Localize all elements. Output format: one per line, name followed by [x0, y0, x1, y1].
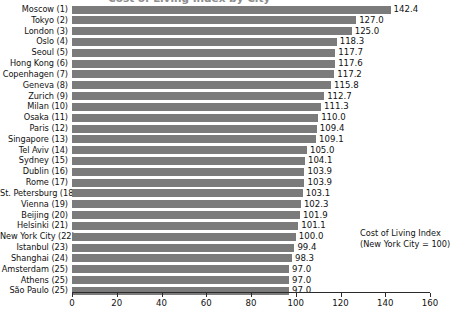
- bar-value-label: 101.1: [301, 220, 326, 231]
- bar-row: Milan (10)111.3: [0, 101, 470, 112]
- category-label: Geneva (8): [0, 80, 68, 91]
- bar-value-label: 101.9: [303, 210, 328, 221]
- bar: [72, 233, 296, 241]
- x-tick: [251, 293, 252, 297]
- category-label: St. Petersburg (18): [0, 188, 68, 199]
- category-label: Istanbul (23): [0, 242, 68, 253]
- category-label: Osaka (11): [0, 112, 68, 123]
- bar-row: Tokyo (2)127.0: [0, 15, 470, 26]
- bar-row: Singapore (13)109.1: [0, 134, 470, 145]
- bar-value-label: 103.9: [307, 177, 332, 188]
- category-label: Vienna (19): [0, 199, 68, 210]
- bar: [72, 60, 335, 68]
- bar-value-label: 127.0: [359, 15, 384, 26]
- x-tick-label: 120: [321, 298, 361, 308]
- plot-area: Moscow (1)142.4Tokyo (2)127.0London (3)1…: [0, 6, 470, 296]
- category-label: Dublin (16): [0, 166, 68, 177]
- category-label: Beijing (20): [0, 210, 68, 221]
- bar-row: Moscow (1)142.4: [0, 4, 470, 15]
- bar: [72, 49, 335, 57]
- bar: [72, 157, 305, 165]
- bar-row: Rome (17)103.9: [0, 177, 470, 188]
- bar-row: Hong Kong (6)117.6: [0, 58, 470, 69]
- bar: [72, 211, 300, 219]
- bar-row: Tel Aviv (14)105.0: [0, 145, 470, 156]
- x-tick: [296, 293, 297, 297]
- bar-value-label: 103.9: [307, 166, 332, 177]
- bar: [72, 103, 321, 111]
- bar-row: Geneva (8)115.8: [0, 80, 470, 91]
- bar-row: Zurich (9)112.7: [0, 91, 470, 102]
- bar-value-label: 109.4: [320, 123, 345, 134]
- bar-value-label: 111.3: [324, 101, 349, 112]
- category-label: Amsterdam (25): [0, 264, 68, 275]
- category-label: Copenhagen (7): [0, 69, 68, 80]
- bar-value-label: 117.2: [337, 69, 362, 80]
- bar-row: São Paulo (25)97.0: [0, 285, 470, 296]
- x-tick: [117, 293, 118, 297]
- bar: [72, 168, 304, 176]
- bar-value-label: 98.3: [295, 253, 314, 264]
- category-label: Tel Aviv (14): [0, 145, 68, 156]
- category-label: Singapore (13): [0, 134, 68, 145]
- bar-row: Paris (12)109.4: [0, 123, 470, 134]
- bar-row: London (3)125.0: [0, 26, 470, 37]
- bar-value-label: 142.4: [394, 4, 419, 15]
- bar-value-label: 99.4: [297, 242, 316, 253]
- bar: [72, 38, 337, 46]
- category-label: Oslo (4): [0, 36, 68, 47]
- x-tick-label: 160: [410, 298, 450, 308]
- bar-value-label: 104.1: [308, 155, 333, 166]
- bar-value-label: 117.7: [338, 47, 363, 58]
- x-tick: [385, 293, 386, 297]
- bar-value-label: 97.0: [292, 264, 311, 275]
- x-tick-label: 100: [276, 298, 316, 308]
- bar-row: Dublin (16)103.9: [0, 166, 470, 177]
- bar: [72, 92, 324, 100]
- bar-value-label: 102.3: [304, 199, 329, 210]
- bar: [72, 189, 303, 197]
- bar: [72, 222, 298, 230]
- bar: [72, 16, 356, 24]
- bar-value-label: 105.0: [310, 145, 335, 156]
- x-tick-label: 80: [231, 298, 271, 308]
- x-tick-label: 20: [97, 298, 137, 308]
- bar-value-label: 115.8: [334, 80, 359, 91]
- bar-value-label: 117.6: [338, 58, 363, 69]
- category-label: Paris (12): [0, 123, 68, 134]
- annotation-line-1: Cost of Living Index: [360, 228, 450, 239]
- category-label: Zurich (9): [0, 91, 68, 102]
- bar-row: Sydney (15)104.1: [0, 155, 470, 166]
- category-label: Shanghai (24): [0, 253, 68, 264]
- x-tick-label: 60: [186, 298, 226, 308]
- bar-value-label: 125.0: [355, 26, 380, 37]
- category-label: Moscow (1): [0, 4, 68, 15]
- bar-value-label: 109.1: [319, 134, 344, 145]
- bar-row: Amsterdam (25)97.0: [0, 264, 470, 275]
- bar: [72, 244, 294, 252]
- bar-row: Seoul (5)117.7: [0, 47, 470, 58]
- bar-value-label: 103.1: [306, 188, 331, 199]
- x-tick: [206, 293, 207, 297]
- bar: [72, 125, 317, 133]
- bar: [72, 179, 304, 187]
- bar: [72, 265, 289, 273]
- category-label: Seoul (5): [0, 47, 68, 58]
- category-label: Hong Kong (6): [0, 58, 68, 69]
- annotation-line-2: (New York City = 100): [360, 239, 450, 250]
- bar: [72, 81, 331, 89]
- x-tick: [341, 293, 342, 297]
- x-tick: [72, 293, 73, 297]
- x-tick-label: 0: [52, 298, 92, 308]
- bar: [72, 276, 289, 284]
- bar: [72, 200, 301, 208]
- bar: [72, 70, 334, 78]
- category-label: Tokyo (2): [0, 15, 68, 26]
- category-label: Milan (10): [0, 101, 68, 112]
- bar: [72, 254, 292, 262]
- category-label: New York City (22): [0, 231, 68, 242]
- x-tick: [430, 293, 431, 297]
- bar-value-label: 112.7: [327, 91, 352, 102]
- bar: [72, 114, 318, 122]
- bar-row: St. Petersburg (18)103.1: [0, 188, 470, 199]
